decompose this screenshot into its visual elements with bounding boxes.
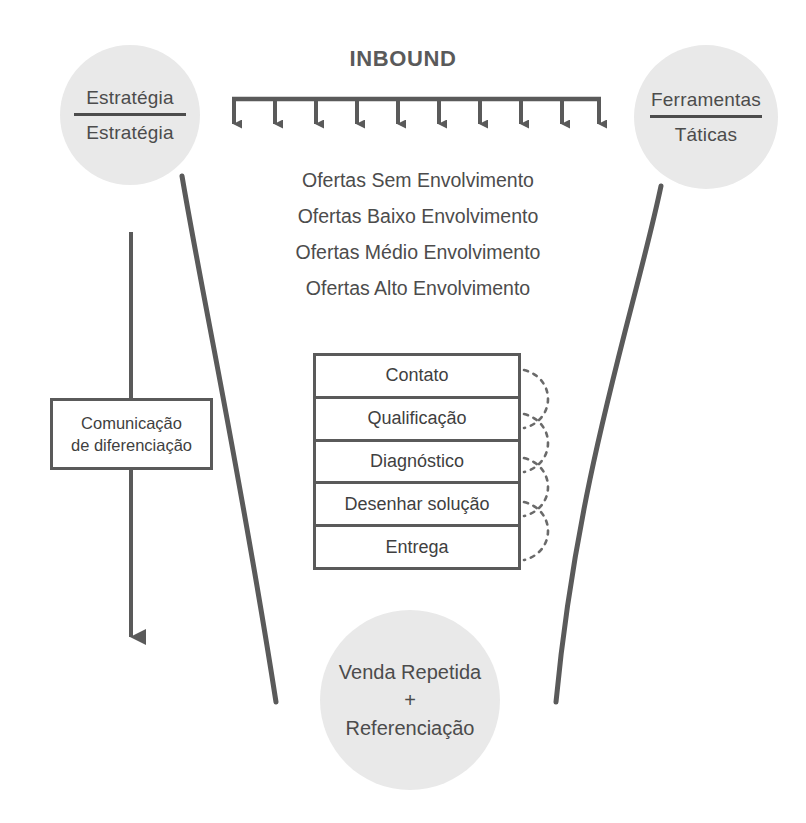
tools-circle[interactable]: Ferramentas Táticas (634, 45, 778, 189)
strategy-circle[interactable]: Estratégia Estratégia (60, 45, 200, 185)
repeat-sale-circle[interactable]: Venda Repetida + Referenciação (320, 610, 500, 790)
offer-item: Ofertas Alto Envolvimento (233, 270, 603, 306)
process-feedback-arcs (524, 370, 548, 560)
process-step-diagnostico[interactable]: Diagnóstico (316, 442, 518, 485)
offer-item: Ofertas Sem Envolvimento (233, 162, 603, 198)
diagram-canvas: INBOUND Estratégia Estratégia Ferramenta… (0, 0, 806, 823)
process-step-desenhar-solucao[interactable]: Desenhar solução (316, 484, 518, 527)
repeat-sale-line-3: Referenciação (346, 714, 475, 742)
differentiation-box-line-2: de diferenciação (71, 434, 192, 456)
differentiation-box: Comunicação de diferenciação (50, 398, 213, 470)
repeat-sale-plus-sign: + (404, 686, 416, 714)
tools-circle-top-label: Ferramentas (651, 89, 761, 115)
process-step-qualificacao[interactable]: Qualificação (316, 399, 518, 442)
offers-list: Ofertas Sem Envolvimento Ofertas Baixo E… (233, 162, 603, 306)
strategy-circle-top-label: Estratégia (86, 87, 174, 113)
offer-item: Ofertas Médio Envolvimento (233, 234, 603, 270)
process-step-contato[interactable]: Contato (316, 356, 518, 399)
strategy-circle-bottom-label: Estratégia (86, 116, 174, 144)
offer-item: Ofertas Baixo Envolvimento (233, 198, 603, 234)
process-step-entrega[interactable]: Entrega (316, 527, 518, 567)
tools-circle-bottom-label: Táticas (675, 118, 738, 146)
differentiation-box-line-1: Comunicação (81, 412, 182, 434)
sales-process-stack: Contato Qualificação Diagnóstico Desenha… (313, 353, 521, 570)
inbound-arrows (234, 99, 599, 124)
repeat-sale-line-1: Venda Repetida (339, 658, 481, 686)
